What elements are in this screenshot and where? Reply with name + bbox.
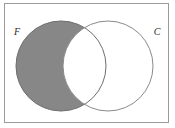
set-c-label: C [154, 26, 161, 37]
set-f-label: F [13, 26, 21, 37]
venn-diagram-figure: F C [0, 0, 175, 128]
venn-diagram-canvas: F C [0, 0, 175, 128]
region-f-minus-c-shaded [0, 0, 175, 128]
